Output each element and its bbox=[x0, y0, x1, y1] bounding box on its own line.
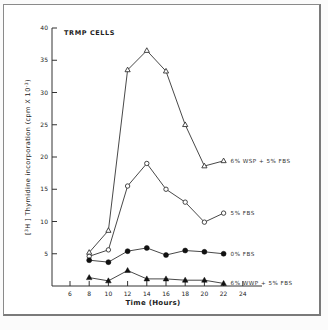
filled-circle-marker bbox=[144, 245, 149, 250]
filled-circle-marker bbox=[183, 248, 188, 253]
y-tick-label: 40 bbox=[40, 24, 48, 31]
series-line bbox=[89, 163, 223, 256]
y-axis-label: [3H ] Thymidine incorporation (cpm X 10-… bbox=[24, 79, 33, 235]
y-tick-label: 5 bbox=[44, 250, 48, 257]
filled-circle-marker bbox=[164, 253, 169, 258]
x-tick-label: 18 bbox=[181, 290, 189, 297]
x-tick-label: 10 bbox=[105, 290, 113, 297]
filled-circle-marker bbox=[125, 249, 130, 254]
filled-triangle-marker bbox=[163, 276, 169, 281]
filled-circle-marker bbox=[202, 249, 207, 254]
x-tick-label: 6 bbox=[68, 290, 72, 297]
series-label: 6% WSP + 5% FBS bbox=[231, 158, 291, 164]
series-6-wwp-5-fbs: 6% WWP + 5% FBS bbox=[86, 268, 292, 287]
filled-triangle-marker bbox=[86, 275, 92, 280]
series-label: 6% WWP + 5% FBS bbox=[231, 280, 293, 286]
x-tick-label: 22 bbox=[220, 290, 228, 297]
y-tick-label: 30 bbox=[40, 89, 48, 96]
open-circle-marker bbox=[183, 200, 187, 204]
x-axis-label: Time (Hours) bbox=[126, 299, 181, 307]
filled-triangle-marker bbox=[202, 277, 208, 282]
series-label: 5% FBS bbox=[231, 210, 255, 216]
filled-triangle-marker bbox=[125, 268, 131, 273]
x-tick-label: 8 bbox=[87, 290, 91, 297]
y-tick-label: 10 bbox=[40, 218, 48, 225]
open-circle-marker bbox=[221, 211, 225, 215]
chart-title: TRMP CELLS bbox=[64, 29, 115, 37]
open-triangle-marker bbox=[183, 122, 188, 127]
open-triangle-marker bbox=[144, 48, 149, 53]
x-tick-label: 20 bbox=[201, 290, 209, 297]
open-triangle-marker bbox=[221, 158, 226, 163]
series-0-fbs: 0% FBS bbox=[87, 245, 255, 264]
x-tick-label: 12 bbox=[124, 290, 132, 297]
y-tick-label: 15 bbox=[40, 185, 48, 192]
open-circle-marker bbox=[202, 220, 206, 224]
filled-circle-marker bbox=[106, 260, 111, 265]
open-triangle-marker bbox=[106, 228, 111, 233]
filled-circle-marker bbox=[221, 251, 226, 256]
x-tick-label: 24 bbox=[239, 290, 247, 297]
x-tick-label: 16 bbox=[162, 290, 170, 297]
open-circle-marker bbox=[164, 187, 168, 191]
open-circle-marker bbox=[106, 248, 110, 252]
filled-circle-marker bbox=[87, 258, 92, 263]
open-circle-marker bbox=[145, 161, 149, 165]
y-tick-label: 20 bbox=[40, 153, 48, 160]
series-label: 0% FBS bbox=[231, 251, 255, 257]
x-tick-label: 14 bbox=[143, 290, 151, 297]
open-circle-marker bbox=[125, 184, 129, 188]
y-tick-label: 25 bbox=[40, 121, 48, 128]
series-5-fbs: 5% FBS bbox=[87, 161, 255, 258]
series-6-wsp-5-fbs: 6% WSP + 5% FBS bbox=[87, 48, 291, 254]
y-tick-label: 35 bbox=[40, 56, 48, 63]
thymidine-chart: 510152025303540681012141618202224TRMP CE… bbox=[0, 0, 328, 330]
